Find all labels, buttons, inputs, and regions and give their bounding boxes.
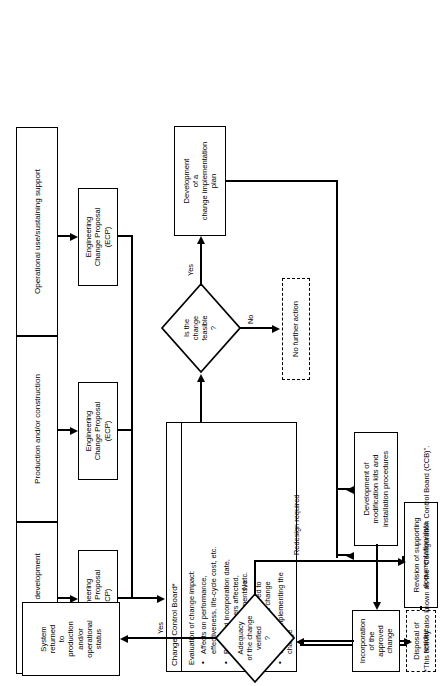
connector-plan-down bbox=[226, 180, 338, 182]
system-returned-line-7: status bbox=[94, 629, 103, 649]
arrowhead-modkits-to-incorporation bbox=[373, 602, 381, 610]
system-returned-line-2: returned bbox=[48, 625, 57, 653]
incorporation-line-1: Incorporation bbox=[358, 619, 367, 663]
revision-docs-line-1: Revision of supporting bbox=[412, 517, 421, 592]
connector-ccb-to-decision bbox=[200, 380, 202, 422]
ecp-box-operational: Engineering Change Proposal (ECP) bbox=[78, 188, 118, 286]
development-plan-box: Development of a change implementation p… bbox=[174, 126, 226, 236]
ecp3-line2: Change Proposal bbox=[93, 208, 102, 267]
label-feasible-no: No bbox=[246, 315, 255, 324]
connector-decision-no bbox=[240, 327, 276, 329]
arrowhead-decision-no bbox=[272, 325, 280, 333]
decision-change-feasible: Is the change feasible ? bbox=[160, 282, 242, 374]
connector-adequacy-no bbox=[254, 560, 256, 596]
revision-supporting-docs-box: Revision of supporting documentation/dat… bbox=[404, 502, 438, 608]
ecp2-line3: (ECP) bbox=[103, 421, 112, 442]
arrowhead-ccb-to-decision bbox=[197, 374, 205, 382]
ccb-title: Change Control Board* bbox=[167, 423, 182, 671]
mod-kits-line-1: Development of bbox=[362, 462, 371, 515]
incorporation-approved-change-box: Incorporation of the approved change bbox=[352, 610, 400, 672]
connector-decision-yes bbox=[200, 242, 202, 286]
incorporation-line-2: of the bbox=[367, 632, 376, 651]
system-returned-line-3: to bbox=[57, 636, 66, 642]
label-redesign-required: Redesign required bbox=[292, 495, 301, 555]
label-adequacy-yes: Yes bbox=[156, 622, 165, 634]
arrowhead-bus-to-modkits bbox=[346, 486, 354, 494]
ecp2-line1: Engineering bbox=[84, 411, 93, 452]
decision-change-feasible-text: Is the change feasible ? bbox=[160, 282, 242, 374]
decision-adequacy-verified: Adequacy of the change verified ? bbox=[214, 592, 296, 684]
arrowhead-incorporation-up bbox=[296, 638, 304, 646]
footnote-ccb: *This activity also known as the "Config… bbox=[422, 446, 431, 672]
flowchart-canvas: Design and development Production and/or… bbox=[0, 0, 440, 686]
dev-plan-line-3: change implementation bbox=[200, 142, 209, 221]
connector-bus-to-ccb bbox=[131, 597, 159, 599]
connector-modkits-to-incorporation bbox=[376, 544, 378, 602]
development-modification-kits-box: Development of modification kits and ins… bbox=[354, 432, 398, 546]
arrowhead-adequacy-yes bbox=[120, 635, 128, 643]
ccb-bullet-1-line-1: Affects on performance, bbox=[199, 576, 208, 654]
system-returned-line-4: production bbox=[66, 621, 75, 656]
rotated-page-frame: Design and development Production and/or… bbox=[0, 0, 440, 686]
connector-incorporation-up bbox=[300, 640, 354, 642]
label-feasible-yes: Yes bbox=[186, 264, 195, 276]
system-returned-line-1: System bbox=[39, 626, 48, 651]
phase-production-construction: Production and/or construction bbox=[16, 336, 58, 522]
arrowhead-incorporation-to-disposal bbox=[404, 638, 412, 646]
phase-operational-use: Operational use/sustaining support bbox=[16, 127, 58, 336]
ecp3-line1: Engineering bbox=[84, 217, 93, 258]
ecp3-line3: (ECP) bbox=[103, 227, 112, 248]
lower-distribution-bus bbox=[336, 180, 338, 558]
mod-kits-line-3: installation procedures bbox=[381, 451, 390, 527]
dev-plan-line-1: Development bbox=[182, 159, 191, 204]
arrowhead-bus-to-ccb bbox=[157, 595, 165, 603]
decision-adequacy-text: Adequacy of the change verified ? bbox=[214, 592, 296, 684]
no-further-action-box: No further action bbox=[282, 278, 310, 380]
arrowhead-redesign bbox=[398, 558, 406, 566]
dev-plan-line-4: plan bbox=[209, 174, 218, 188]
system-returned-line-5: and/or bbox=[76, 628, 85, 650]
connector-redesign-down bbox=[254, 560, 404, 562]
decision-adequacy-line-4: ? bbox=[264, 636, 273, 640]
incorporation-line-3: approved change bbox=[376, 625, 394, 657]
ecp-collection-bus bbox=[131, 235, 133, 599]
connector-adequacy-yes bbox=[124, 637, 216, 639]
mod-kits-line-2: modification kits and bbox=[371, 455, 380, 524]
ecp-box-production: Engineering Change Proposal (ECP) bbox=[78, 382, 118, 480]
ecp2-line2: Change Proposal bbox=[93, 402, 102, 461]
system-returned-line-6: operational bbox=[85, 620, 94, 658]
arrowhead-bus-to-revision bbox=[346, 552, 354, 560]
dev-plan-line-2: of a bbox=[191, 175, 200, 188]
arrowhead-phase2-to-ecp2 bbox=[70, 427, 78, 435]
system-returned-box: System returned to production and/or ope… bbox=[22, 602, 120, 676]
arrowhead-decision-yes bbox=[197, 236, 205, 244]
decision-feasible-line-4: ? bbox=[210, 326, 219, 330]
arrowhead-phase3-to-ecp3 bbox=[70, 233, 78, 241]
ccb-intro: Evaluation of change impact: bbox=[187, 429, 196, 665]
label-adequacy-no: No bbox=[240, 581, 249, 590]
